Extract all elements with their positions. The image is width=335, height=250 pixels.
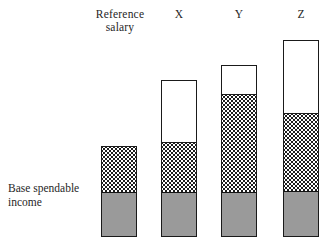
- column-label-x: X: [161, 8, 197, 21]
- bar-segment-middle-band: [102, 147, 136, 192]
- bar-y: [221, 65, 257, 237]
- bar-z: [283, 40, 319, 237]
- bar-segment-base-spendable-income: [222, 192, 256, 236]
- base-spendable-income-caption: Base spendable income: [8, 182, 100, 209]
- bar-segment-middle-band: [222, 94, 256, 192]
- bar-segment-base-spendable-income: [284, 191, 318, 236]
- bar-x: [161, 80, 197, 237]
- column-label-z: Z: [283, 8, 319, 21]
- column-label-reference-salary: Reference salary: [84, 8, 156, 34]
- bar-segment-base-spendable-income: [162, 192, 196, 236]
- stacked-bar-chart: Reference salary X Y Z Base spendable in…: [0, 0, 335, 250]
- column-label-y: Y: [221, 8, 257, 21]
- bar-segment-upper-band: [284, 41, 318, 113]
- bar-segment-upper-band: [162, 81, 196, 142]
- bar-segment-upper-band: [222, 66, 256, 94]
- bar-segment-base-spendable-income: [102, 192, 136, 236]
- bar-segment-middle-band: [162, 142, 196, 191]
- bar-reference-salary: [101, 146, 137, 237]
- bar-segment-middle-band: [284, 113, 318, 191]
